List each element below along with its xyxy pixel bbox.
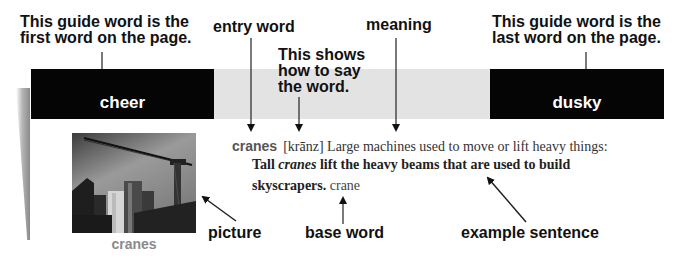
callout-arrows [0, 0, 684, 262]
